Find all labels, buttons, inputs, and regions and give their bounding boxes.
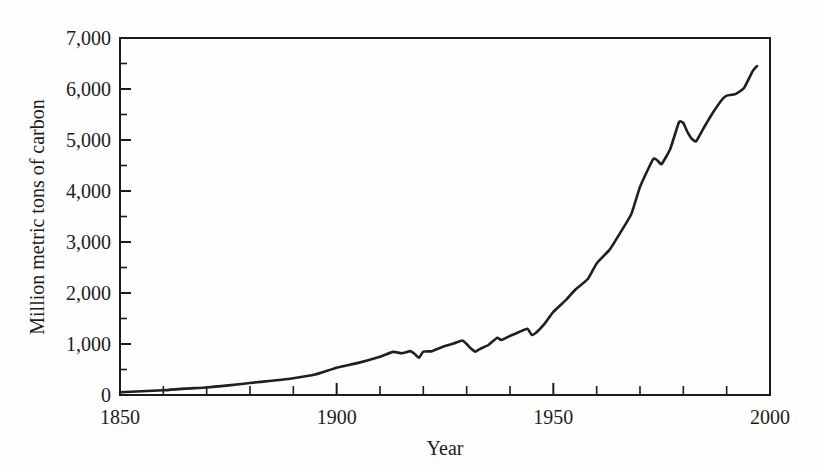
y-tick-label: 1,000 [66, 333, 111, 355]
y-tick-label: 3,000 [66, 231, 111, 253]
x-tick-label: 1900 [317, 406, 357, 428]
x-tick-label: 1950 [533, 406, 573, 428]
plot-frame [120, 38, 770, 395]
x-axis-tick-labels: 1850190019502000 [100, 406, 790, 428]
y-tick-label: 6,000 [66, 78, 111, 100]
y-tick-label: 0 [101, 384, 111, 406]
x-tick-label: 2000 [750, 406, 790, 428]
y-axis-title: Million metric tons of carbon [26, 99, 48, 335]
data-series-line [120, 66, 757, 392]
x-tick-label: 1850 [100, 406, 140, 428]
y-axis-ticks [120, 38, 131, 395]
y-tick-label: 7,000 [66, 27, 111, 49]
x-axis-title: Year [427, 437, 464, 459]
x-axis-ticks [163, 383, 726, 395]
y-tick-label: 2,000 [66, 282, 111, 304]
y-tick-label: 5,000 [66, 129, 111, 151]
line-chart: 01,0002,0003,0004,0005,0006,0007,000 185… [0, 0, 824, 471]
y-tick-label: 4,000 [66, 180, 111, 202]
figure-container: 01,0002,0003,0004,0005,0006,0007,000 185… [0, 0, 824, 471]
y-axis-tick-labels: 01,0002,0003,0004,0005,0006,0007,000 [66, 27, 111, 406]
